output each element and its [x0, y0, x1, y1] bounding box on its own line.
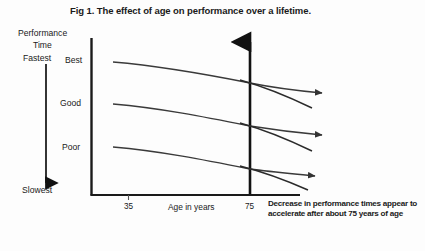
y-axis-title-line2: Time	[33, 41, 52, 50]
y-axis-label-fastest: Fastest	[23, 54, 51, 63]
figure-title: Fig 1. The effect of age on performance …	[70, 6, 311, 16]
category-label-best: Best	[65, 56, 82, 65]
curve-poor-gradual	[113, 147, 315, 176]
chart-annotation-text: Decrease in performance times appear to …	[268, 199, 420, 220]
y-axis-label-slowest: Slowest	[22, 186, 52, 195]
y-axis-title-line1: Performance	[18, 29, 67, 38]
curve-best-gradual	[113, 62, 322, 93]
figure-container: Fig 1. The effect of age on performance …	[0, 0, 425, 251]
curve-good-gradual	[113, 104, 322, 135]
category-label-good: Good	[60, 99, 81, 108]
x-axis-tick-label-35: 35	[124, 203, 133, 212]
x-axis-title: Age in years	[168, 203, 215, 212]
x-axis-tick-label-75: 75	[245, 203, 254, 212]
category-label-poor: Poor	[62, 143, 80, 152]
